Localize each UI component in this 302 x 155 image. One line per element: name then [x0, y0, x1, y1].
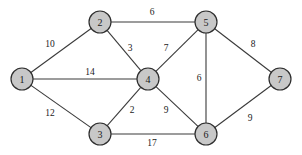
graph-node-1[interactable]: 1 [11, 68, 33, 90]
graph-edge-4-6 [156, 87, 198, 127]
graph-edge-5-7 [215, 29, 272, 73]
node-label-3: 3 [98, 129, 103, 140]
edge-weight-4-5: 7 [164, 43, 169, 53]
graph-edge-3-4 [107, 87, 141, 125]
graph-edge-6-7 [215, 86, 271, 128]
node-label-2: 2 [98, 17, 103, 28]
edge-weight-5-7: 8 [251, 39, 256, 49]
edge-weight-4-6: 9 [164, 105, 169, 115]
graph-node-4[interactable]: 4 [137, 68, 159, 90]
edge-weight-2-4: 3 [128, 43, 133, 53]
graph-node-6[interactable]: 6 [195, 123, 217, 145]
edge-weight-1-2: 10 [45, 39, 55, 49]
weighted-graph-diagram: 1234567 1014126378629179 [0, 0, 302, 155]
nodes-layer: 1234567 [11, 11, 291, 145]
node-label-1: 1 [20, 74, 25, 85]
graph-edge-1-3 [31, 85, 91, 127]
graph-edge-1-2 [31, 28, 91, 72]
edge-weight-6-7: 9 [248, 113, 253, 123]
edge-weight-5-6: 6 [197, 73, 202, 83]
graph-edge-4-5 [156, 30, 198, 72]
graph-canvas: 1234567 1014126378629179 [0, 0, 302, 155]
edge-weight-3-6: 17 [147, 138, 157, 148]
edge-weight-3-4: 2 [130, 105, 135, 115]
graph-edge-2-4 [107, 30, 141, 70]
edge-weight-1-3: 12 [45, 108, 55, 118]
graph-node-3[interactable]: 3 [89, 123, 111, 145]
edge-weight-1-4: 14 [85, 67, 95, 77]
node-label-6: 6 [204, 129, 209, 140]
node-label-4: 4 [146, 74, 151, 85]
node-label-5: 5 [204, 17, 209, 28]
node-label-7: 7 [278, 74, 283, 85]
graph-node-7[interactable]: 7 [269, 68, 291, 90]
graph-node-5[interactable]: 5 [195, 11, 217, 33]
graph-node-2[interactable]: 2 [89, 11, 111, 33]
edge-weight-2-5: 6 [150, 7, 155, 17]
